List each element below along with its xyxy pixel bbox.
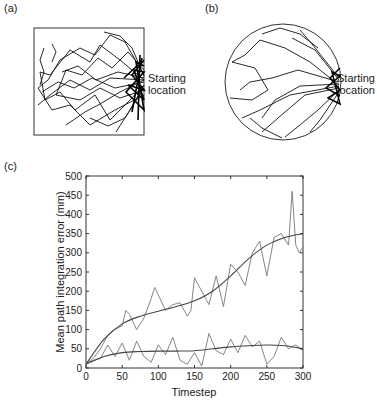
y-tick-label: 0 bbox=[76, 363, 82, 374]
x-axis-label: Timestep bbox=[172, 386, 217, 398]
y-tick-label: 150 bbox=[65, 305, 82, 316]
x-tick-label: 250 bbox=[258, 371, 275, 382]
panel-c-chart: 050100150200250300350400450500 050100150… bbox=[0, 0, 377, 403]
series-upper-noisy bbox=[86, 191, 303, 364]
data-series bbox=[86, 191, 303, 366]
plot-frame bbox=[86, 176, 303, 368]
x-tick-label: 150 bbox=[186, 371, 203, 382]
series-lower-fit bbox=[86, 345, 303, 364]
y-axis-label: Mean path integration error (mm) bbox=[54, 191, 66, 352]
series-lower-noisy bbox=[86, 333, 303, 366]
y-tick-label: 200 bbox=[65, 286, 82, 297]
x-tick-label: 200 bbox=[222, 371, 239, 382]
y-tick-label: 500 bbox=[65, 171, 82, 182]
y-tick-label: 50 bbox=[71, 343, 83, 354]
y-tick-label: 400 bbox=[65, 209, 82, 220]
y-tick-label: 250 bbox=[65, 267, 82, 278]
x-tick-label: 300 bbox=[295, 371, 312, 382]
x-tick-label: 50 bbox=[117, 371, 129, 382]
y-tick-label: 350 bbox=[65, 228, 82, 239]
y-tick-label: 100 bbox=[65, 324, 82, 335]
x-tick-label: 100 bbox=[150, 371, 167, 382]
y-tick-label: 300 bbox=[65, 247, 82, 258]
x-tick-label: 0 bbox=[83, 371, 89, 382]
y-tick-label: 450 bbox=[65, 190, 82, 201]
